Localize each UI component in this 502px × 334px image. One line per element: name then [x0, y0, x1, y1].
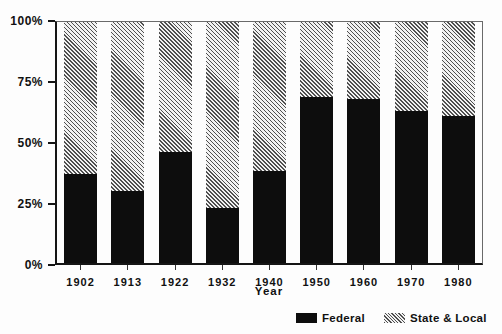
state-local-segment — [206, 22, 239, 208]
y-tick-label-75: 75% — [17, 75, 43, 89]
y-tick-mark — [48, 20, 55, 22]
legend-label-state-local: State & Local — [410, 312, 487, 324]
x-tick-mark — [411, 265, 412, 270]
y-tick-row-25: 25% — [0, 197, 55, 211]
federal-segment — [64, 174, 97, 263]
federal-segment — [111, 191, 144, 263]
bar-slot-1922: 1922 — [151, 22, 198, 263]
y-tick-mark — [48, 264, 55, 266]
federal-segment — [442, 116, 475, 263]
plot-area: 1902 1913 1922 1932 — [55, 21, 483, 265]
bar-1913 — [111, 22, 144, 263]
bar-slot-1950: 1950 — [293, 22, 340, 263]
bar-slot-1913: 1913 — [104, 22, 151, 263]
y-tick-label-25: 25% — [17, 197, 43, 211]
state-local-segment — [347, 22, 380, 99]
federal-segment — [159, 152, 192, 263]
y-tick-mark — [48, 203, 55, 205]
y-tick-label-0: 0% — [25, 258, 43, 272]
x-tick-mark — [316, 265, 317, 270]
bar-1902 — [64, 22, 97, 263]
state-local-segment — [111, 22, 144, 191]
state-local-segment — [159, 22, 192, 152]
state-local-segment — [300, 22, 333, 97]
legend-label-federal: Federal — [322, 312, 365, 324]
y-tick-row-50: 50% — [0, 136, 55, 150]
y-tick-row-0: 0% — [0, 258, 55, 272]
bar-slot-1980: 1980 — [435, 22, 482, 263]
bar-slot-1960: 1960 — [340, 22, 387, 263]
federal-segment — [395, 111, 428, 263]
x-tick-mark — [458, 265, 459, 270]
bar-1922 — [159, 22, 192, 263]
y-tick-row-75: 75% — [0, 75, 55, 89]
bar-slot-1970: 1970 — [388, 22, 435, 263]
y-axis: 100% 75% 50% 25% 0% — [0, 21, 55, 265]
state-local-swatch-icon — [384, 313, 405, 323]
federal-segment — [300, 97, 333, 263]
federal-segment — [206, 208, 239, 263]
y-tick-mark — [48, 142, 55, 144]
y-tick-row-100: 100% — [0, 14, 55, 28]
bar-1950 — [300, 22, 333, 263]
state-local-segment — [253, 22, 286, 171]
x-axis-title: Year — [55, 285, 483, 297]
bar-1940 — [253, 22, 286, 263]
y-tick-mark — [48, 81, 55, 83]
x-tick-mark — [363, 265, 364, 270]
federal-swatch-icon — [296, 313, 317, 323]
bar-1960 — [347, 22, 380, 263]
bar-slot-1902: 1902 — [57, 22, 104, 263]
x-tick-mark — [80, 265, 81, 270]
bar-slot-1932: 1932 — [199, 22, 246, 263]
x-tick-mark — [222, 265, 223, 270]
state-local-segment — [395, 22, 428, 111]
stacked-bar-chart-figure: 100% 75% 50% 25% 0% 1902 1913 — [0, 0, 502, 334]
x-tick-mark — [127, 265, 128, 270]
chart-legend: Federal State & Local — [296, 312, 487, 324]
bar-1932 — [206, 22, 239, 263]
state-local-segment — [442, 22, 475, 116]
bar-1980 — [442, 22, 475, 263]
federal-segment — [347, 99, 380, 263]
federal-segment — [253, 171, 286, 263]
state-local-segment — [64, 22, 97, 174]
bar-slot-1940: 1940 — [246, 22, 293, 263]
y-tick-label-100: 100% — [10, 14, 43, 28]
x-tick-mark — [269, 265, 270, 270]
bar-1970 — [395, 22, 428, 263]
y-tick-label-50: 50% — [17, 136, 43, 150]
x-tick-mark — [175, 265, 176, 270]
